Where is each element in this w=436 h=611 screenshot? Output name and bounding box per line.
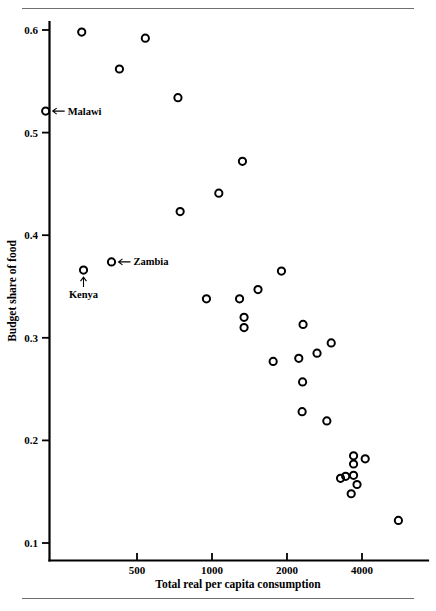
data-point [270,358,277,365]
figure-container: 0.10.20.30.40.50.6 500100020004000 Malaw… [0,0,436,611]
data-point [299,378,306,385]
data-point [328,339,335,346]
chart-svg: 0.10.20.30.40.50.6 500100020004000 Malaw… [0,0,436,611]
data-point [240,314,247,321]
annotation-label-kenya: Kenya [69,289,99,300]
data-point [116,65,123,72]
y-axis-ticks: 0.10.20.30.40.50.6 [24,24,50,549]
data-point [142,35,149,42]
x-tick-label: 1000 [201,564,224,576]
data-point [295,355,302,362]
annotation-label-zambia: Zambia [133,256,169,267]
x-tick-label: 4000 [351,564,374,576]
annotation-arrow-up-icon [81,277,87,287]
data-point [348,490,355,497]
data-point [108,258,115,265]
data-point [174,94,181,101]
annotation-label-malawi: Malawi [68,106,102,117]
annotation-arrow-left-icon [119,259,131,265]
data-point [395,517,402,524]
data-point [362,455,369,462]
data-point [299,321,306,328]
data-point [203,295,210,302]
x-tick-label: 2000 [276,564,299,576]
data-point [215,190,222,197]
y-tick-label: 0.5 [24,127,38,139]
data-point [350,452,357,459]
x-tick-label: 500 [129,564,146,576]
y-axis-title: Budget share of food [6,240,19,342]
y-tick-label: 0.1 [24,537,38,549]
data-point [78,28,85,35]
y-tick-label: 0.3 [24,332,38,344]
data-point [323,417,330,424]
data-point [239,158,246,165]
data-point [177,208,184,215]
y-tick-label: 0.2 [24,434,38,446]
data-point [350,460,357,467]
data-point [236,295,243,302]
data-point [299,408,306,415]
x-axis-title: Total real per capita consumption [155,578,321,591]
point-annotations: MalawiZambiaKenya [53,106,170,301]
data-point [42,107,49,114]
data-point [80,266,87,273]
data-point [240,324,247,331]
data-point [313,350,320,357]
data-point [353,481,360,488]
y-tick-label: 0.4 [24,229,38,241]
data-point-markers [42,28,402,524]
y-tick-label: 0.6 [24,24,38,36]
x-axis-ticks: 500100020004000 [129,553,374,576]
scatter-plot: 0.10.20.30.40.50.6 500100020004000 Malaw… [0,0,436,611]
data-point [350,472,357,479]
annotation-arrow-left-icon [53,108,65,114]
data-point [278,268,285,275]
data-point [254,286,261,293]
